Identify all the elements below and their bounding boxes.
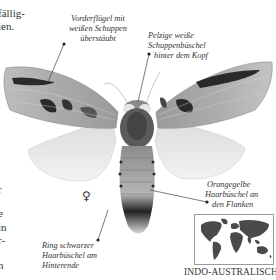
annotation-tail-ring: Ring schwarzer Haarbüschel am Hinterende: [42, 241, 97, 271]
field-guide-page: fällig- ien. r e in r- n: [0, 0, 276, 280]
left-antenna: [104, 83, 128, 104]
female-symbol: ♀: [82, 189, 91, 203]
distribution-map: [194, 214, 274, 265]
moth-abdomen: [120, 146, 155, 234]
world-map-icon: [195, 215, 273, 264]
right-antenna: [146, 72, 160, 104]
annotation-flank-tufts: Orangegelbe Haarbüschel an den Flanken: [205, 180, 258, 210]
annotation-forewing: Vorderflügel mit weißen Schuppen überstä…: [58, 14, 138, 44]
left-forewing: [4, 67, 118, 128]
distribution-region-label: INDO-AUSTRALISCH: [184, 267, 276, 277]
annotation-head-tufts: Pelzige weiße Schuppenbüschel hinter dem…: [148, 31, 208, 61]
